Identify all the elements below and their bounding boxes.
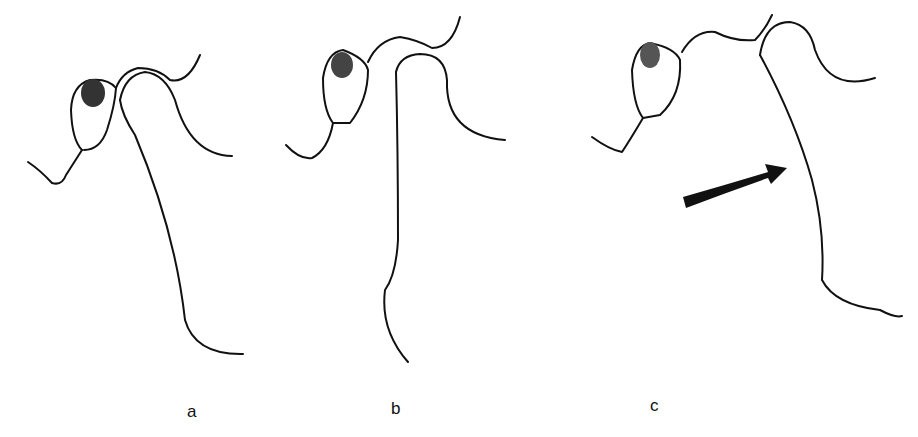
panel-b-nucleus	[331, 52, 353, 78]
panel-label-c: c	[650, 396, 659, 416]
panel-label-a: a	[187, 402, 196, 422]
panel-c-stalk	[760, 55, 902, 316]
panel-b-stalk	[384, 72, 408, 362]
panel-c-drawing	[592, 15, 902, 316]
panel-c-nucleus	[640, 42, 660, 68]
panel-b-left-lip	[286, 123, 333, 158]
panel-c-top-curve	[682, 15, 772, 52]
panel-c-right-fold	[760, 22, 875, 82]
panel-c-left-lip	[592, 118, 643, 152]
panel-a-left-lip	[28, 150, 82, 184]
panel-a-top-curve	[116, 55, 200, 88]
panel-b-drawing	[286, 17, 505, 362]
panel-a-drawing	[28, 55, 243, 354]
panel-label-b: b	[391, 399, 400, 419]
panel-a-right-fold	[120, 72, 232, 156]
figure: a b c	[0, 0, 918, 437]
panel-a-nucleus	[81, 79, 105, 107]
panel-a-stalk	[120, 100, 243, 354]
arrow-icon	[683, 164, 787, 208]
panel-b-right-fold	[396, 54, 505, 140]
